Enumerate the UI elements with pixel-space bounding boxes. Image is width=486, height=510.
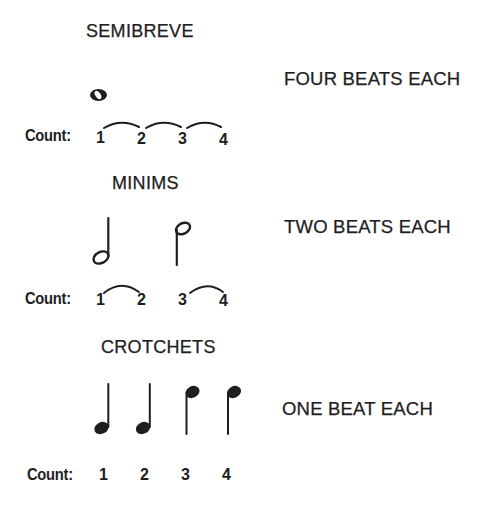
minim-stem-down-icon [174, 220, 192, 265]
crotchet-2-note-icon [134, 384, 153, 437]
crotchet-4-note-icon [225, 383, 243, 434]
minim-stem-up-icon [91, 218, 110, 266]
crotchet-3-note-icon [183, 383, 201, 434]
notation-canvas [0, 0, 486, 510]
semibreve-note-icon [90, 89, 107, 101]
crotchet-1-note-icon [92, 384, 111, 437]
minims-tie-arcs-icon [104, 286, 223, 293]
semibreve-tie-arcs-icon [104, 123, 221, 128]
